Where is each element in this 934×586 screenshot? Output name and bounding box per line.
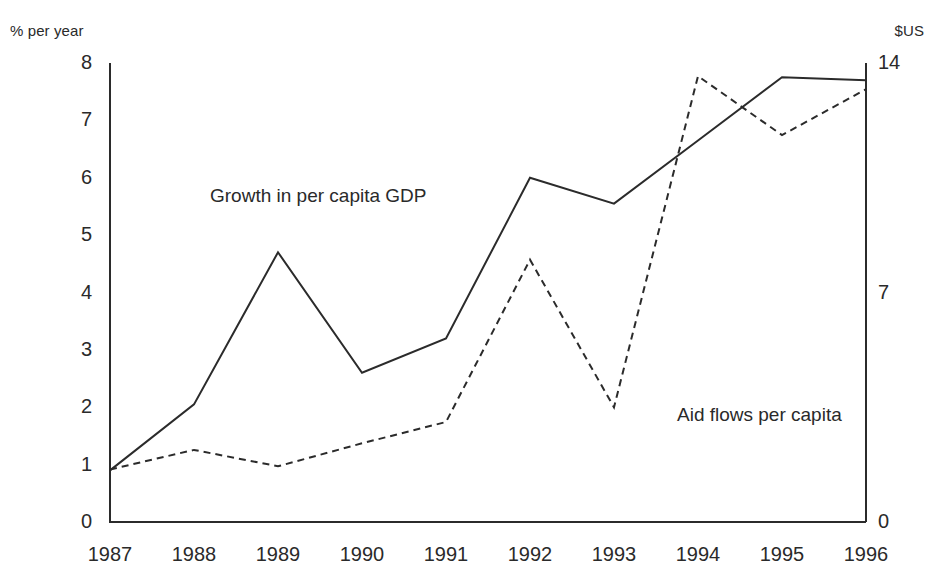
x-tick-1991: 1991: [411, 544, 481, 564]
left-axis-unit-label: % per year: [10, 22, 84, 39]
y-tick-left-7: 7: [58, 109, 92, 129]
line-chart-plot-area: [0, 0, 934, 586]
x-tick-1993: 1993: [579, 544, 649, 564]
y-tick-left-3: 3: [58, 339, 92, 359]
annotation-growth-in-per-capita-gdp: Growth in per capita GDP: [210, 185, 426, 207]
x-tick-1992: 1992: [495, 544, 565, 564]
y-tick-left-5: 5: [58, 224, 92, 244]
right-axis-unit-label: $US: [895, 22, 924, 39]
x-tick-1988: 1988: [159, 544, 229, 564]
y-tick-left-2: 2: [58, 396, 92, 416]
x-tick-1994: 1994: [663, 544, 733, 564]
x-tick-1996: 1996: [831, 544, 901, 564]
y-tick-right-14: 14: [878, 52, 918, 72]
y-tick-left-4: 4: [58, 282, 92, 302]
x-tick-1995: 1995: [747, 544, 817, 564]
y-tick-left-6: 6: [58, 167, 92, 187]
y-tick-left-8: 8: [58, 52, 92, 72]
y-tick-right-0: 0: [878, 511, 918, 531]
axis-frame: [110, 63, 866, 522]
y-tick-left-1: 1: [58, 454, 92, 474]
x-tick-1990: 1990: [327, 544, 397, 564]
x-tick-1989: 1989: [243, 544, 313, 564]
annotation-aid-flows-per-capita: Aid flows per capita: [677, 404, 842, 426]
chart-figure: % per year $US 876543210 1470 1987198819…: [0, 0, 934, 586]
y-tick-right-7: 7: [878, 282, 918, 302]
x-tick-1987: 1987: [75, 544, 145, 564]
y-tick-left-0: 0: [58, 511, 92, 531]
